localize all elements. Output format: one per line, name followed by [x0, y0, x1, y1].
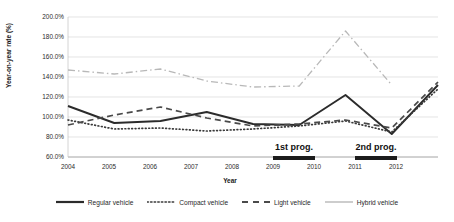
plot-area	[0, 0, 454, 222]
x-tick-label: 2006	[130, 163, 170, 170]
x-tick-label: 2010	[294, 163, 334, 170]
legend-swatch-dotted-icon	[147, 198, 175, 206]
chart-legend: Regular vehicle Compact vehicle Light ve…	[0, 198, 454, 206]
legend-swatch-solid-icon	[56, 198, 84, 206]
legend-label: Light vehicle	[274, 199, 311, 206]
legend-item-hybrid-vehicle: Hybrid vehicle	[325, 198, 398, 206]
legend-label: Regular vehicle	[88, 199, 133, 206]
legend-item-compact-vehicle: Compact vehicle	[147, 198, 228, 206]
x-tick-label: 2009	[253, 163, 293, 170]
x-tick-label: 2007	[171, 163, 211, 170]
legend-item-regular-vehicle: Regular vehicle	[56, 198, 133, 206]
chart-container: Year-on-year rate (%) 200.0% 180.0% 160.…	[0, 0, 454, 222]
annotation-label-2nd-prog: 2nd prog.	[340, 142, 412, 152]
annotation-label-1st-prog: 1st prog.	[258, 142, 330, 152]
legend-label: Hybrid vehicle	[357, 199, 398, 206]
x-tick-label: 2004	[48, 163, 88, 170]
x-tick-label: 2011	[335, 163, 375, 170]
series-line	[68, 82, 438, 128]
legend-swatch-dashdot-icon	[325, 198, 353, 206]
annotation-bar-1st-prog	[273, 156, 315, 160]
series-line	[68, 31, 392, 87]
x-tick-label: 2008	[212, 163, 252, 170]
x-tick-label: 2012	[376, 163, 416, 170]
x-axis-title: Year	[190, 177, 270, 184]
x-tick-label: 2005	[89, 163, 129, 170]
legend-swatch-dashed-icon	[242, 198, 270, 206]
legend-label: Compact vehicle	[179, 199, 228, 206]
gridlines	[68, 17, 438, 157]
series-lines	[68, 31, 438, 134]
annotation-bar-2nd-prog	[355, 156, 397, 160]
series-line	[68, 85, 438, 134]
legend-item-light-vehicle: Light vehicle	[242, 198, 311, 206]
